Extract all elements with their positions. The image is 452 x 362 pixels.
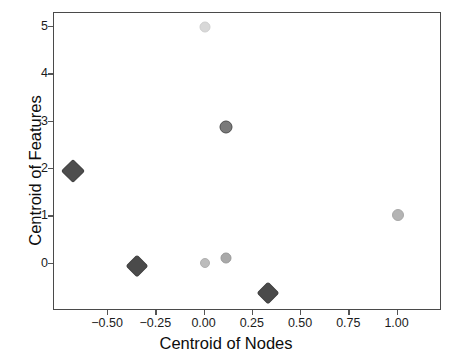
point-lower-left-diamond (126, 255, 149, 278)
point-near-zero-gray (220, 253, 231, 264)
y-tick-mark (48, 26, 53, 27)
y-tick-mark (48, 168, 53, 169)
x-tick-mark (348, 310, 349, 315)
point-mid-dark (219, 120, 232, 133)
point-bottom-diamond (257, 282, 280, 305)
plot-area (53, 12, 441, 310)
x-tick-mark (107, 310, 108, 315)
y-tick-mark (48, 73, 53, 74)
x-axis-title: Centroid of Nodes (0, 334, 452, 353)
data-points-layer (54, 13, 440, 309)
point-top-pale (199, 22, 210, 33)
x-tick-label: 1.00 (362, 316, 432, 330)
point-zero-pale (200, 258, 210, 268)
point-left-diamond (61, 159, 85, 183)
y-tick-label: 5 (8, 19, 48, 33)
x-tick-mark (300, 310, 301, 315)
y-tick-mark (48, 263, 53, 264)
y-tick-mark (48, 215, 53, 216)
point-right-light (392, 209, 404, 221)
y-tick-mark (48, 121, 53, 122)
y-axis-title: Centroid of Features (26, 46, 45, 296)
x-tick-mark (252, 310, 253, 315)
x-tick-mark (204, 310, 205, 315)
x-tick-mark (397, 310, 398, 315)
scatter-chart-figure: 012345 −0.50−0.250.000.250.500.751.00 Ce… (0, 0, 452, 362)
x-tick-mark (155, 310, 156, 315)
